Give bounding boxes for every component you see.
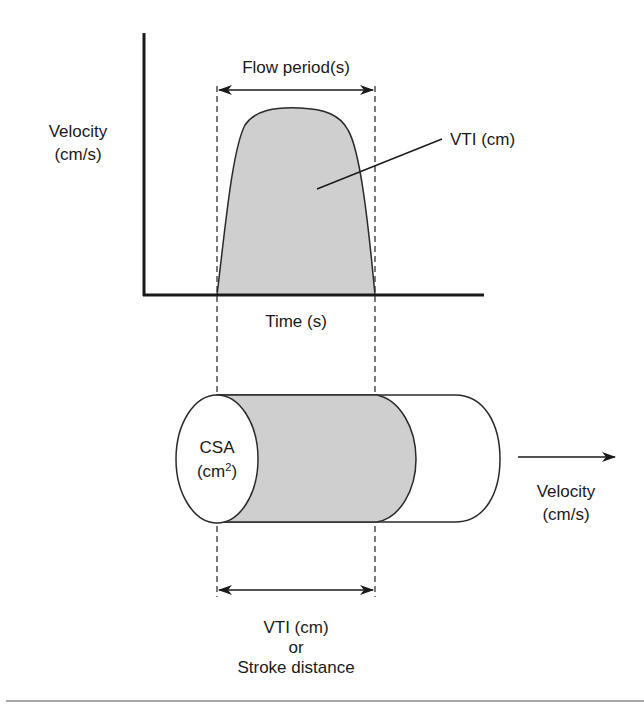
- velocity-curve-area: [217, 108, 375, 295]
- vti-area-label: VTI (cm): [450, 130, 515, 149]
- csa-label-line1: CSA: [200, 438, 236, 457]
- x-axis-label: Time (s): [265, 312, 327, 331]
- csa-label-line2: (cm2): [197, 461, 237, 481]
- stroke-distance-label-line2: or: [288, 638, 303, 657]
- y-axis-label-line2: (cm/s): [54, 145, 101, 164]
- velocity-label-line2: (cm/s): [542, 505, 589, 524]
- stroke-distance-label-line3: Stroke distance: [237, 658, 354, 677]
- csa-close: ): [231, 462, 237, 481]
- velocity-label-line1: Velocity: [537, 482, 596, 501]
- y-axis-label-line1: Velocity: [49, 122, 108, 141]
- stroke-distance-label-line1: VTI (cm): [263, 618, 328, 637]
- flow-period-label: Flow period(s): [242, 58, 350, 77]
- cross-section-ellipse: [176, 395, 258, 523]
- vti-diagram: Flow period(s) Velocity (cm/s) VTI (cm) …: [0, 0, 644, 708]
- csa-unit: (cm: [197, 462, 225, 481]
